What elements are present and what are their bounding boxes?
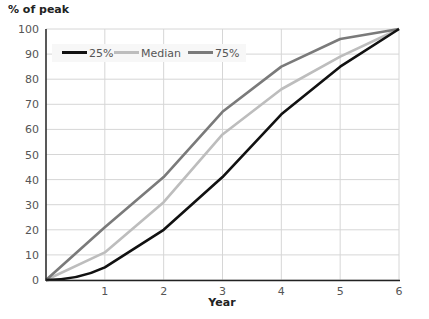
y-tick-label: 50	[25, 149, 39, 162]
x-tick-label: 5	[337, 285, 344, 298]
y-tick-label: 20	[25, 224, 39, 237]
x-tick-label: 6	[396, 285, 403, 298]
x-axis-ticks: 123456	[101, 285, 402, 298]
y-tick-label: 80	[25, 73, 39, 86]
x-tick-label: 2	[160, 285, 167, 298]
line-chart: % of peak 0102030405060708090100 123456 …	[0, 0, 429, 319]
legend-label: Median	[141, 47, 181, 60]
y-axis-title: % of peak	[8, 3, 70, 16]
y-tick-label: 40	[25, 174, 39, 187]
x-tick-label: 1	[101, 285, 108, 298]
legend-label: 25%	[89, 47, 113, 60]
x-tick-label: 4	[278, 285, 285, 298]
y-tick-label: 10	[25, 249, 39, 262]
y-tick-label: 60	[25, 123, 39, 136]
x-axis-title: Year	[207, 296, 236, 309]
y-tick-label: 0	[32, 274, 39, 287]
y-tick-label: 100	[18, 23, 39, 36]
y-tick-label: 90	[25, 48, 39, 61]
y-tick-label: 30	[25, 199, 39, 212]
legend-label: 75%	[215, 47, 239, 60]
y-tick-label: 70	[25, 98, 39, 111]
grid-lines	[46, 29, 399, 280]
y-axis-ticks: 0102030405060708090100	[18, 23, 39, 287]
